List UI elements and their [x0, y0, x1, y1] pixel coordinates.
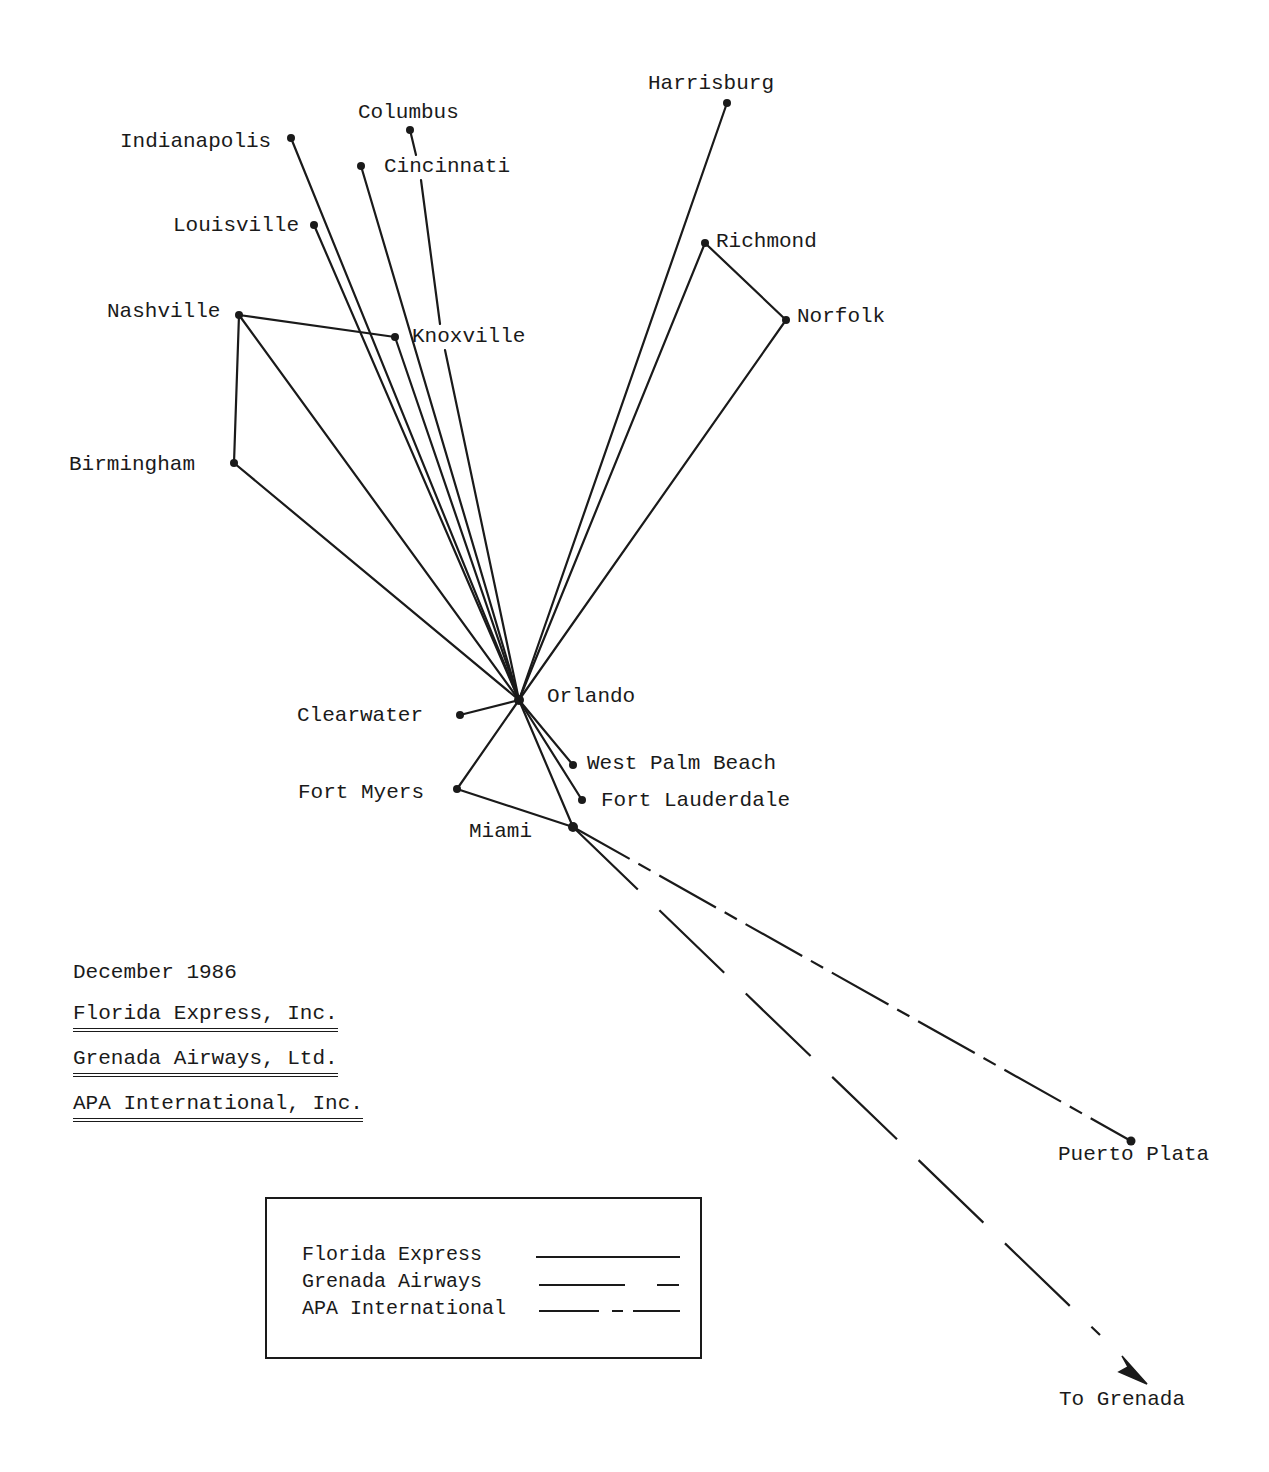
- city-dot-west-palm-beach: [569, 761, 577, 769]
- route-orlando-indianapolis: [291, 138, 519, 700]
- route-miami-puerto-plata: [573, 827, 1131, 1141]
- route-orlando-richmond: [519, 243, 705, 700]
- city-dot-harrisburg: [723, 99, 731, 107]
- label-miami: Miami: [469, 820, 532, 844]
- city-dot-richmond: [701, 239, 709, 247]
- label-harrisburg: Harrisburg: [648, 72, 774, 96]
- label-puerto-plata: Puerto Plata: [1058, 1143, 1209, 1167]
- label-birmingham: Birmingham: [69, 453, 195, 477]
- route-richmond-norfolk: [705, 243, 786, 320]
- city-dot-nashville: [235, 311, 243, 319]
- city-dot-knoxville: [391, 333, 399, 341]
- route-orlando-fort-lauderdale: [519, 700, 582, 800]
- city-dot-louisville: [310, 221, 318, 229]
- city-dot-cincinnati: [357, 162, 365, 170]
- arrow-head-icon: [1119, 1356, 1147, 1384]
- city-dot-indianapolis: [287, 134, 295, 142]
- city-dot-norfolk: [782, 316, 790, 324]
- label-indianapolis: Indianapolis: [120, 130, 271, 154]
- date-caption: December 1986: [73, 961, 237, 985]
- carrier-apa-international: APA International, Inc.: [73, 1092, 363, 1122]
- route-orlando-harrisburg: [519, 103, 727, 700]
- label-nashville: Nashville: [107, 300, 220, 324]
- route-orlando-columbus-seg2: [421, 180, 440, 324]
- label-clearwater: Clearwater: [297, 704, 423, 728]
- city-dot-clearwater: [456, 711, 464, 719]
- city-dot-orlando: [514, 695, 524, 705]
- label-columbus: Columbus: [358, 101, 459, 125]
- route-orlando-norfolk: [519, 320, 786, 700]
- city-dot-miami: [568, 822, 578, 832]
- label-orlando: Orlando: [547, 685, 635, 709]
- label-to-grenada: To Grenada: [1059, 1388, 1185, 1412]
- label-cincinnati: Cincinnati: [384, 155, 510, 179]
- route-orlando-cincinnati: [361, 166, 519, 700]
- carrier-florida-express: Florida Express, Inc.: [73, 1002, 338, 1032]
- route-nashville-birmingham: [234, 315, 239, 463]
- route-orlando-knoxville: [395, 337, 519, 700]
- route-nashville-knoxville: [239, 315, 395, 337]
- label-louisville: Louisville: [173, 214, 299, 238]
- route-orlando-nashville: [239, 315, 519, 700]
- route-orlando-louisville: [314, 225, 519, 700]
- label-norfolk: Norfolk: [797, 305, 885, 329]
- city-dot-birmingham: [230, 459, 238, 467]
- label-west-palm-beach: West Palm Beach: [587, 752, 776, 776]
- label-fort-lauderdale: Fort Lauderdale: [601, 789, 790, 813]
- route-orlando-west-palm-beach: [519, 700, 573, 765]
- city-dot-fort-myers: [453, 785, 461, 793]
- label-fort-myers: Fort Myers: [298, 781, 424, 805]
- city-dot-fort-lauderdale: [578, 796, 586, 804]
- legend-swatches: [267, 1199, 704, 1361]
- carrier-grenada-airways: Grenada Airways, Ltd.: [73, 1047, 338, 1077]
- legend: Florida Express Grenada Airways APA Inte…: [265, 1197, 702, 1359]
- route-orlando-miami: [519, 700, 573, 827]
- city-dot-columbus: [406, 126, 414, 134]
- label-knoxville: Knoxville: [412, 325, 525, 349]
- label-richmond: Richmond: [716, 230, 817, 254]
